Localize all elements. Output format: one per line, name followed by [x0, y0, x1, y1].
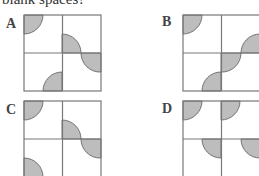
quarter-circle-icon [24, 101, 43, 120]
option-d-grid[interactable] [183, 101, 259, 176]
option-c-grid[interactable] [24, 101, 101, 176]
quarter-circle-icon [81, 53, 101, 72]
quarter-circle-icon [202, 139, 221, 158]
quarter-circle-icon [183, 101, 202, 120]
quarter-circle-icon [183, 15, 202, 34]
answer-options-figure [0, 0, 259, 176]
quarter-circle-icon [241, 139, 259, 158]
quarter-circle-icon [202, 72, 221, 91]
quarter-circle-icon [241, 34, 259, 53]
option-a-grid[interactable] [24, 15, 101, 91]
option-b-grid[interactable] [183, 15, 259, 91]
quarter-circle-icon [43, 72, 62, 91]
quarter-circle-icon [221, 53, 241, 72]
quarter-circle-icon [62, 120, 81, 139]
quarter-circle-icon [62, 34, 81, 53]
quarter-circle-icon [24, 15, 43, 34]
quarter-circle-icon [221, 101, 240, 120]
quarter-circle-icon [24, 158, 43, 176]
quarter-circle-icon [81, 139, 101, 158]
